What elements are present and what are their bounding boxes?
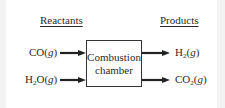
arrows [0, 0, 225, 108]
